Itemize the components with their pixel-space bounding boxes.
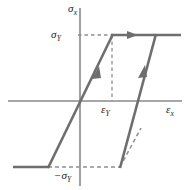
stress-strain-figure: σx σY εY εx −σY	[0, 0, 186, 190]
x-axis-label-symbol: ε	[166, 103, 170, 115]
negative-yield-stress-label: −σY	[54, 170, 71, 181]
yield-strain-label-subscript: Y	[106, 109, 110, 118]
yield-strain-label: εY	[101, 104, 110, 115]
figure-canvas	[0, 0, 186, 190]
y-axis-label-subscript: x	[74, 8, 77, 17]
negative-yield-stress-label-symbol: −σ	[54, 169, 67, 181]
reloading-up-arrow-icon	[138, 65, 147, 78]
yield-strain-label-symbol: ε	[101, 103, 105, 115]
yield-stress-label-subscript: Y	[57, 34, 61, 43]
y-axis-label-symbol: σ	[68, 2, 73, 14]
yield-stress-label-symbol: σ	[51, 28, 56, 40]
dashed-path-group	[48, 128, 141, 167]
negative-yield-stress-label-subscript: Y	[67, 175, 71, 184]
plateau-right-arrow-icon	[127, 31, 138, 39]
x-axis-label: εx	[166, 104, 174, 115]
y-axis-label: σx	[68, 3, 77, 14]
arrowheads-group	[92, 31, 147, 79]
x-axis-label-subscript: x	[171, 109, 174, 118]
yield-stress-label: σY	[51, 29, 61, 40]
